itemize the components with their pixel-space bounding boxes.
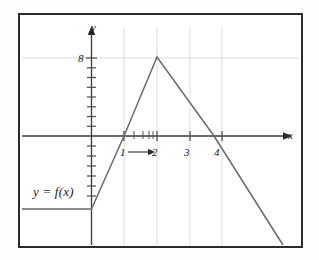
x-tick-label-2: 2 [152,146,158,158]
x-tick-label-4: 4 [214,146,220,158]
graph-canvas [0,0,319,260]
y-axis-label: y [91,21,96,33]
function-label: y = f(x) [33,184,74,200]
x-tick-label-3: 3 [184,146,190,158]
x-tick-label-1: 1 [120,146,126,158]
y-tick-label-8: 8 [78,52,84,64]
x-axis-label: x [288,129,293,141]
approach-arrow-1-to-2 [128,149,155,155]
figure-container: y x 8 1 2 3 4 y = f(x) [0,0,319,260]
minor-marks-between-1-and-2 [134,131,153,139]
